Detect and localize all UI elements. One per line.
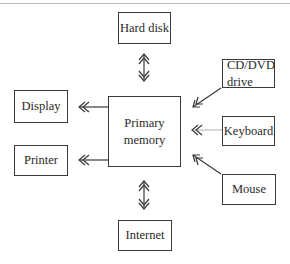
keyboard-node: Keyboard xyxy=(222,116,275,146)
hard-disk-bidirectional-arrow xyxy=(139,54,149,81)
primary-memory-label: Primary memory xyxy=(124,115,166,149)
keyboard-input-arrow xyxy=(192,125,222,135)
display-output-arrow xyxy=(79,102,108,112)
printer-node: Printer xyxy=(14,145,68,176)
internet-label: Internet xyxy=(126,227,165,244)
hard-disk-node: Hard disk xyxy=(118,12,171,44)
display-label: Display xyxy=(22,98,61,115)
cd-dvd-node: CD/DVD drive xyxy=(222,59,275,88)
cd-dvd-input-arrow xyxy=(193,88,221,107)
keyboard-label: Keyboard xyxy=(224,123,273,140)
mouse-node: Mouse xyxy=(222,174,276,205)
primary-memory-node: Primary memory xyxy=(108,96,181,167)
cd-dvd-label: CD/DVD drive xyxy=(227,57,275,91)
internet-node: Internet xyxy=(118,220,172,251)
printer-output-arrow xyxy=(79,155,108,165)
mouse-input-arrow xyxy=(193,155,221,174)
internet-bidirectional-arrow xyxy=(139,181,149,209)
display-node: Display xyxy=(14,90,68,123)
hard-disk-label: Hard disk xyxy=(120,20,169,37)
printer-label: Printer xyxy=(24,152,58,169)
mouse-label: Mouse xyxy=(232,181,266,198)
